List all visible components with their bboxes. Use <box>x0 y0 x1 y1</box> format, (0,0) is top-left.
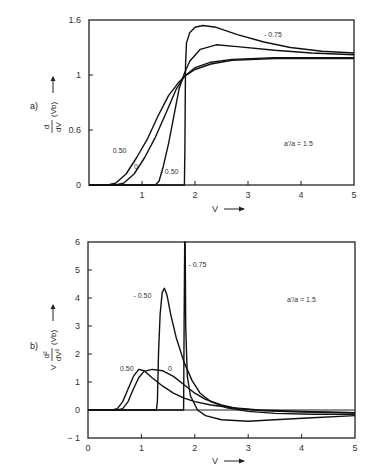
curve-label: - 0.75 <box>264 31 282 38</box>
y-arrowhead-icon <box>51 304 56 309</box>
x-tick-label: 4 <box>298 190 303 200</box>
y-tick-label: 6 <box>75 237 80 247</box>
series-line-075 <box>89 26 354 186</box>
x-tick-label: 0 <box>85 443 90 453</box>
y-axis-label: ddV(Vb) <box>42 76 63 133</box>
panel-a-label: a) <box>30 101 38 111</box>
x-tick-label: 3 <box>246 443 251 453</box>
curves-b <box>88 242 355 421</box>
series-line-075 <box>88 242 355 421</box>
x-tick-label: 2 <box>192 190 197 200</box>
series-line-050 <box>88 288 355 414</box>
annotation-b: a'/a = 1.5 <box>287 296 316 303</box>
y-tick-label: 2 <box>75 349 80 359</box>
y-tick-label: 1 <box>76 70 81 80</box>
y-label-paren: (Vb) <box>49 102 58 117</box>
y-tick-label: 4 <box>75 293 80 303</box>
x-tick-label: 3 <box>245 190 250 200</box>
curve-label: 0 <box>134 163 138 170</box>
curve-label: - 0.75 <box>188 261 206 268</box>
x-axis-label-a: V <box>212 204 218 214</box>
plot-frame-b <box>88 242 355 438</box>
curves-a <box>89 26 354 186</box>
curve-label: - 0.50 <box>161 168 179 175</box>
x-tick-label: 4 <box>299 443 304 453</box>
curve-label: 0.50 <box>113 147 127 154</box>
y-tick-label: 1.6 <box>68 15 81 25</box>
curve-label: - 0.50 <box>133 292 151 299</box>
annotation-a: a'/a = 1.5 <box>284 140 313 147</box>
curve-label: 0 <box>168 365 172 372</box>
y-tick-label: 0.6 <box>68 125 81 135</box>
x-arrowhead-icon <box>239 207 245 212</box>
x-tick-label: 5 <box>352 443 357 453</box>
panel-b-label: b) <box>30 341 38 351</box>
y-label-numerator: d <box>42 125 51 129</box>
curve-labels-b: 0.500- 0.50- 0.75 <box>120 261 206 372</box>
figure: a) 1234500.611.6 0.500- 0.50- 0.75 a'/a … <box>0 0 367 469</box>
ticks-b: 012345− 10123456 <box>67 237 357 453</box>
y-tick-label: 0 <box>75 405 80 415</box>
panel-a: a) 1234500.611.6 0.500- 0.50- 0.75 a'/a … <box>30 15 357 214</box>
x-arrowhead-icon <box>239 459 245 464</box>
y-label-prefix: V <box>49 364 58 370</box>
y-label-paren: (Vb) <box>49 330 58 345</box>
series-line-050 <box>89 59 354 186</box>
y-axis-label: Vd²dV²(Vb) <box>42 304 63 370</box>
ticks-a: 1234500.611.6 <box>68 15 356 200</box>
x-tick-label: 1 <box>139 190 144 200</box>
series-line-0 <box>89 58 354 185</box>
x-tick-label: 1 <box>139 443 144 453</box>
y-arrowhead-icon <box>51 76 56 81</box>
x-tick-label: 2 <box>192 443 197 453</box>
y-tick-label: 5 <box>75 265 80 275</box>
x-axis-label-b: V <box>212 456 218 466</box>
x-tick-label: 5 <box>351 190 356 200</box>
panel-b: b) 012345− 10123456 0.500- 0.50- 0.75 a'… <box>30 237 358 466</box>
y-label-denominator: dV <box>54 121 63 131</box>
y-tick-label: 0 <box>76 180 81 190</box>
curve-label: 0.50 <box>120 365 134 372</box>
y-tick-label: 1 <box>75 377 80 387</box>
series-line-050 <box>89 45 354 185</box>
y-tick-label: − 1 <box>67 433 80 443</box>
y-label-numerator: d² <box>42 351 51 358</box>
y-tick-label: 3 <box>75 321 80 331</box>
y-label-denominator: dV² <box>54 348 63 361</box>
